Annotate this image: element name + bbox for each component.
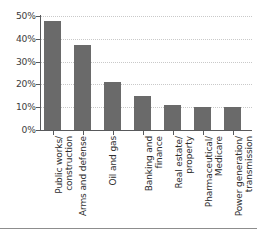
category-label-line: property — [184, 136, 194, 188]
y-axis-tick — [36, 107, 40, 108]
bar-column — [134, 16, 151, 130]
x-axis-category-label: Pharmaceutical/Medicare — [204, 136, 224, 207]
category-label-line: transmission — [244, 136, 254, 216]
x-axis-labels: Public works/constructionArms and defens… — [0, 136, 257, 237]
bar-column — [164, 16, 181, 130]
bar[interactable] — [74, 45, 91, 131]
category-label-line: Oil and gas — [108, 136, 118, 186]
bar[interactable] — [164, 105, 181, 130]
bar[interactable] — [104, 82, 121, 130]
category-label-line: Banking and — [144, 136, 154, 191]
bar-column — [104, 16, 121, 130]
category-label-line: Pharmaceutical/ — [204, 136, 214, 207]
x-axis-tick — [233, 130, 234, 135]
x-axis-category-label: Oil and gas — [108, 136, 118, 186]
category-label-line: finance — [154, 136, 164, 191]
bar-chart: 50%40%30%20%10%0% Public works/construct… — [0, 0, 257, 237]
category-label-line: Arms and defense — [78, 136, 88, 216]
y-axis-tick — [36, 39, 40, 40]
footer-divider — [0, 228, 257, 229]
bars — [0, 16, 257, 130]
bar[interactable] — [134, 96, 151, 130]
bar-column — [194, 16, 211, 130]
x-axis-tick — [143, 130, 144, 135]
category-label-line: Power generation/ — [234, 136, 244, 216]
x-axis-tick — [113, 130, 114, 135]
y-axis-tick — [36, 62, 40, 63]
category-label-line: construction — [64, 136, 74, 194]
x-axis-tick — [173, 130, 174, 135]
x-axis-tick — [83, 130, 84, 135]
y-axis-tick — [36, 130, 40, 131]
bar[interactable] — [44, 21, 61, 130]
x-axis-line — [40, 130, 252, 131]
x-axis-category-label: Real estate/property — [174, 136, 194, 188]
x-axis-category-label: Power generation/transmission — [234, 136, 254, 216]
category-label-line: Public works/ — [54, 136, 64, 194]
bar[interactable] — [224, 107, 241, 130]
y-axis-tick — [36, 16, 40, 17]
category-label-line: Medicare — [214, 136, 224, 207]
x-axis-category-label: Banking andfinance — [144, 136, 164, 191]
x-axis-category-label: Public works/construction — [54, 136, 74, 194]
bar-column — [224, 16, 241, 130]
x-axis-tick — [203, 130, 204, 135]
category-label-line: Real estate/ — [174, 136, 184, 188]
y-axis-tick — [36, 84, 40, 85]
bar[interactable] — [194, 107, 211, 130]
x-axis-category-label: Arms and defense — [78, 136, 88, 216]
bar-column — [44, 16, 61, 130]
x-axis-tick — [53, 130, 54, 135]
bar-column — [74, 16, 91, 130]
